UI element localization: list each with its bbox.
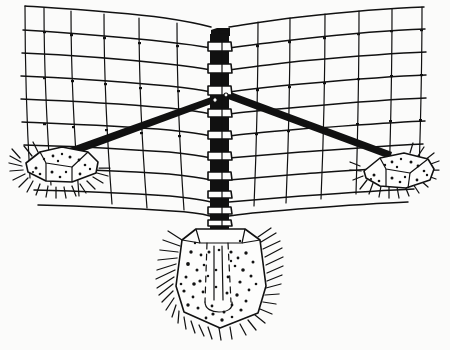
illustration-canvas: Braced fence corner post with concrete f… [0, 0, 450, 350]
post-wire-bands [208, 42, 232, 226]
brace-bolt-left [213, 98, 217, 102]
concrete-footing [176, 229, 266, 328]
brace-bolt-right [224, 93, 228, 97]
corner-post [208, 28, 232, 232]
footing-body [176, 229, 266, 328]
fence-corner-post-drawing [0, 0, 450, 350]
